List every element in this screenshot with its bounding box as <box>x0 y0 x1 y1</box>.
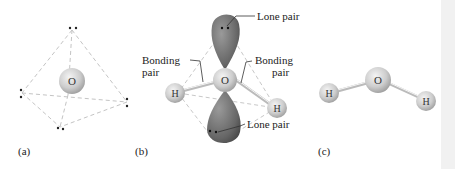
bonding-pair-label-right-1: Bonding <box>255 55 293 66</box>
svg-text:H: H <box>171 88 178 99</box>
bonding-pair-label-left-1: Bonding <box>142 55 180 66</box>
lone-pair-lobe-bottom <box>207 90 241 143</box>
molecular-geometry-diagram: O O H H <box>0 0 455 169</box>
svg-text:H: H <box>325 88 332 99</box>
bonding-pair-label-left-2: pair <box>142 67 159 78</box>
panel-label-c: (c) <box>318 145 330 157</box>
panel-label-b: (b) <box>135 145 148 157</box>
lone-pair-lobe-top <box>212 14 240 70</box>
svg-text:H: H <box>273 103 280 114</box>
oxygen-symbol-a: O <box>68 75 76 87</box>
svg-text:H: H <box>422 96 429 107</box>
oxygen-symbol-c: O <box>374 74 382 86</box>
lone-pair-label-bottom: Lone pair <box>247 119 289 130</box>
lone-pair-label-top: Lone pair <box>257 11 299 22</box>
oxygen-symbol-b: O <box>221 74 229 86</box>
panel-label-a: (a) <box>18 145 30 157</box>
bonding-pair-label-right-2: pair <box>272 67 289 78</box>
